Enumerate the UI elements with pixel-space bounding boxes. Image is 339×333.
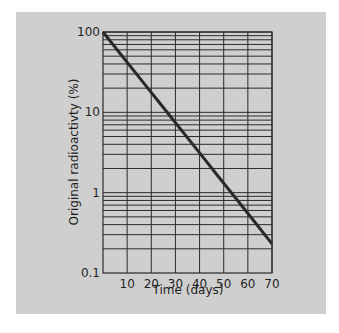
y-tick-label: 10 — [85, 105, 100, 119]
x-tick-label: 60 — [240, 277, 255, 291]
y-tick-label: 0.1 — [81, 266, 100, 280]
y-axis-label: Original radioactivty (%) — [67, 79, 81, 226]
y-tick-label: 1 — [92, 186, 100, 200]
grid-lines — [103, 32, 272, 273]
x-tick-label: 70 — [264, 277, 279, 291]
plot-frame — [103, 32, 272, 273]
x-tick-label: 10 — [120, 277, 135, 291]
x-axis-label: Time (days) — [152, 283, 224, 297]
chart-svg: 10203040506070 0.1110100 Time (days) Ori… — [0, 0, 339, 333]
y-tick-label: 100 — [77, 25, 100, 39]
